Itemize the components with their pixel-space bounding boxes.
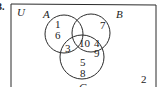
- problem-number: 3.: [0, 1, 5, 12]
- set-a-circle: [45, 15, 83, 53]
- set-a-label: A: [42, 8, 50, 20]
- region-abc-10: 10: [79, 37, 91, 49]
- set-c-label: C: [79, 81, 87, 87]
- venn-diagram: 3. U A B C 1 6 7 3 10 4 9 5 8 2: [0, 0, 159, 87]
- region-b-c-9: 9: [94, 47, 100, 59]
- region-outside-2: 2: [141, 73, 147, 85]
- region-a-only-6: 6: [55, 29, 61, 41]
- set-b-label: B: [116, 8, 123, 20]
- region-a-c-3: 3: [65, 42, 71, 54]
- region-b-only-7: 7: [100, 19, 106, 31]
- universe-label: U: [17, 6, 26, 18]
- region-c-only-8: 8: [80, 67, 86, 79]
